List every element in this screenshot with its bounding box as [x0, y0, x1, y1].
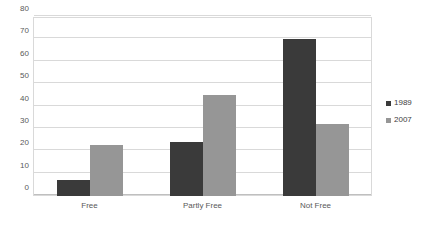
x-tick-label: Free — [81, 201, 97, 211]
bar-2007-partly-free — [203, 95, 236, 196]
y-tick-label: 60 — [0, 50, 29, 58]
y-axis: 01020304050607080 — [0, 17, 29, 196]
y-tick-label: 10 — [0, 162, 29, 170]
bar-chart: 01020304050607080 FreePartly FreeNot Fre… — [0, 0, 429, 231]
y-tick-label: 30 — [0, 117, 29, 125]
y-tick-label: 0 — [0, 184, 29, 192]
bar-2007-free — [90, 145, 123, 196]
x-tick-label: Not Free — [300, 201, 331, 211]
bar-2007-not-free — [316, 124, 349, 196]
bar-1989-partly-free — [170, 142, 203, 196]
legend-label: 2007 — [394, 116, 412, 124]
x-axis: FreePartly FreeNot Free — [33, 201, 372, 217]
bars-layer — [33, 17, 372, 196]
legend-swatch-icon — [386, 118, 391, 123]
y-tick-label: 50 — [0, 72, 29, 80]
y-tick-label: 20 — [0, 139, 29, 147]
legend-item-2007[interactable]: 2007 — [386, 113, 429, 127]
y-tick-label: 80 — [0, 5, 29, 13]
y-tick-label: 70 — [0, 27, 29, 35]
x-tick-label: Partly Free — [183, 201, 222, 211]
gridline-80 — [34, 15, 371, 16]
bar-1989-not-free — [283, 39, 316, 196]
y-tick-label: 40 — [0, 95, 29, 103]
legend: 19892007 — [386, 96, 429, 130]
legend-item-1989[interactable]: 1989 — [386, 96, 429, 110]
legend-label: 1989 — [394, 99, 412, 107]
bar-1989-free — [57, 180, 90, 196]
legend-swatch-icon — [386, 101, 391, 106]
